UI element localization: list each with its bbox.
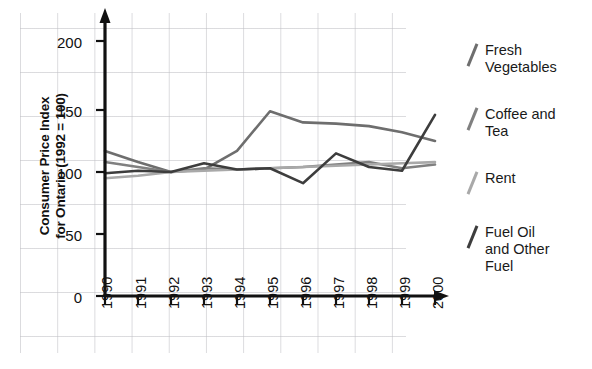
legend-item-coffee-and-tea[interactable]: Coffee and Tea bbox=[466, 106, 556, 140]
legend-item-fuel-oil[interactable]: Fuel Oil and Other Fuel bbox=[466, 224, 550, 275]
axes-layer bbox=[96, 8, 449, 305]
y-axis-arrowhead bbox=[100, 8, 111, 23]
legend-swatch-fuel-oil bbox=[466, 224, 480, 250]
legend-swatch-rent bbox=[466, 170, 480, 196]
legend-swatch-fresh-vegetables bbox=[466, 42, 480, 68]
legend-label-fuel-oil: Fuel Oil and Other Fuel bbox=[485, 224, 550, 275]
legend-label-fresh-vegetables: Fresh Vegetables bbox=[485, 42, 557, 76]
legend-label-coffee-and-tea: Coffee and Tea bbox=[485, 106, 556, 140]
legend-item-fresh-vegetables[interactable]: Fresh Vegetables bbox=[466, 42, 557, 76]
legend-item-rent[interactable]: Rent bbox=[466, 170, 516, 196]
legend-swatch-coffee-and-tea bbox=[466, 106, 480, 132]
series-layer bbox=[105, 111, 435, 183]
chart-page: Consumer Price Index for Ontario (1992 =… bbox=[0, 0, 592, 369]
x-axis-arrowhead bbox=[434, 291, 449, 302]
legend-label-rent: Rent bbox=[485, 170, 516, 187]
